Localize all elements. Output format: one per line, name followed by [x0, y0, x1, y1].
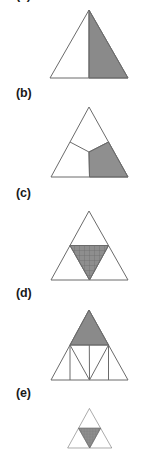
triangle-diagram-c: [44, 205, 136, 287]
figure-part-e: (e): [0, 386, 166, 452]
triangle-diagram-a: [44, 4, 136, 86]
midsegment-right-d: [90, 345, 109, 380]
divider-to-left-midpoint-b: [70, 142, 89, 152]
part-label-c: (c): [16, 187, 31, 200]
geometry-figure-sheet: (a) (b): [0, 0, 166, 452]
shaded-region-medial-triangle-c: [70, 246, 109, 281]
shaded-region-medial-triangle-e: [79, 428, 101, 448]
figure-part-c: (c): [0, 186, 166, 286]
shaded-region-top-medial-triangle-d: [70, 310, 109, 345]
midsegment-left-d: [70, 345, 90, 380]
figure-part-a: (a): [0, 0, 166, 86]
triangle-diagram-e: [44, 405, 136, 452]
figure-part-b: (b): [0, 86, 166, 186]
triangle-diagram-b: [44, 101, 136, 183]
figure-part-d: (d): [0, 286, 166, 386]
triangle-diagram-d: [44, 304, 136, 386]
part-label-a: (a): [16, 0, 31, 2]
shaded-region-lower-right: [89, 142, 128, 177]
part-label-b: (b): [16, 87, 31, 100]
part-label-e: (e): [16, 387, 31, 400]
divider-to-base-midpoint-b: [89, 152, 90, 177]
part-label-d: (d): [16, 287, 31, 300]
